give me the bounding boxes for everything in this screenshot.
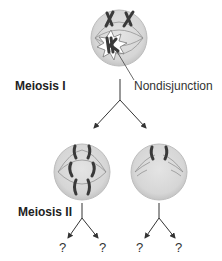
nondisjunction-label: Nondisjunction	[134, 79, 213, 93]
outcome-1: ?	[59, 240, 66, 255]
parent-cell	[91, 10, 147, 80]
outcome-4: ?	[175, 240, 182, 255]
daughter-cell-right	[131, 144, 187, 200]
meiosis-1-label: Meiosis I	[15, 79, 66, 93]
nondisjunction-diagram: Meiosis I Nondisjunction Meiosis II ? ? …	[0, 0, 222, 261]
outcome-3: ?	[136, 240, 143, 255]
meiosis-2-arrows-right	[145, 203, 175, 238]
diagram-canvas	[0, 0, 222, 261]
meiosis-2-label: Meiosis II	[18, 205, 72, 219]
daughter-cell-left	[54, 144, 110, 200]
meiosis-2-arrows-left	[68, 203, 98, 238]
outcome-2: ?	[99, 240, 106, 255]
